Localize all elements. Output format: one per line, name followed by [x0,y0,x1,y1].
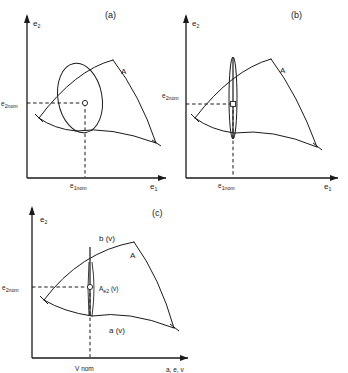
x-axis-arrow-a [158,175,166,181]
y-axis-arrow-c [29,206,35,215]
x-axis-label-b: e1 [324,182,331,192]
nominal-guides-c [32,287,90,357]
uncertainty-ellipse-a [52,60,107,137]
y-axis-arrow-a [24,14,30,23]
upper-bound-label-c: b (v) [99,234,115,243]
y-tick-label-a: e2nom [1,100,18,109]
x-axis-arrow-c [180,355,188,361]
figure-root: (a) e2 e1 e2nom e1nom A [0,0,348,373]
panel-a-axes [24,14,166,181]
panel-c: (c) e2 a, e, v e2nom V nom b (v) a (v) A… [0,190,280,373]
region-label-a: A [121,67,127,76]
x-axis-label-c: a, e, v [166,366,184,373]
panel-b-plot: (b) e2 e1 e2nom e1nom A [174,0,348,190]
nominal-operating-point-b [231,101,236,106]
y-axis-arrow-b [183,14,189,23]
panel-caption-a: (a) [105,10,116,20]
nominal-operating-point-a [82,100,87,105]
lower-bound-label-c: a (v) [109,326,125,335]
panel-a: (a) e2 e1 e2nom e1nom A [0,0,174,190]
panel-b: (b) e2 e1 e2nom e1nom A [174,0,348,190]
segment-label-c: Ae2 (v) [99,285,119,294]
panel-caption-c: (c) [152,208,163,218]
panel-a-plot: (a) e2 e1 e2nom e1nom A [0,0,174,190]
y-axis-label-c: e2 [40,215,47,225]
region-label-c: A [130,251,136,260]
x-axis-arrow-b [330,175,338,181]
y-tick-label-c: e2nom [2,284,19,293]
nominal-guides-b [186,104,233,177]
nominal-operating-point-c [87,284,92,289]
x-tick-label-c: V nom [75,365,94,372]
panel-c-axes [29,206,188,361]
panel-b-axes [183,14,338,181]
y-axis-label-b: e2 [192,19,199,29]
y-axis-label-a: e2 [33,19,40,29]
region-label-b: A [280,66,286,75]
panel-caption-b: (b) [291,10,302,20]
panel-c-plot: (c) e2 a, e, v e2nom V nom b (v) a (v) A… [0,190,280,373]
